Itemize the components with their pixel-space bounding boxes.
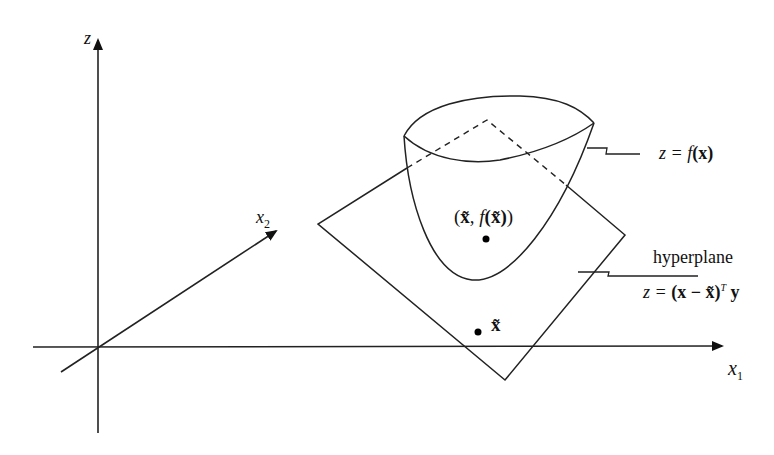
surface-label: z = f(x) (659, 144, 713, 162)
hp-eq-paren: (x − x̃) (671, 282, 720, 302)
diagram-graphics (0, 0, 774, 455)
hyperplane-leader-line (578, 272, 698, 276)
tangent-point-label: (x̃, f(x̃)) (454, 207, 513, 226)
hp-eq-sup: T (720, 282, 726, 293)
hp-eq-lhs: z = (643, 282, 671, 302)
z-axis-label: z (84, 29, 91, 47)
z-axis-label-text: z (84, 28, 91, 48)
x2-axis (61, 231, 276, 372)
base-point-label: x̃ (491, 315, 501, 334)
diagram-canvas: z x2 x1 (x̃, f(x̃)) x̃ z = f(x) hyperpla… (0, 0, 774, 455)
surface-leader-line (587, 148, 640, 154)
hyperplane-title-text: hyperplane (653, 247, 733, 267)
convex-surface-rim-front (404, 123, 594, 162)
x1-label-main: x (728, 357, 737, 379)
x1-axis-label: x1 (728, 358, 743, 378)
base-point-dot (475, 329, 482, 336)
convex-surface-rim-back (404, 96, 594, 136)
x2-axis-label: x2 (256, 208, 270, 226)
x2-label-subscript: 2 (264, 217, 270, 231)
x2-label-main: x (256, 207, 264, 227)
surface-arg: (x) (692, 143, 713, 163)
hp-eq-rhs: y (726, 282, 740, 302)
hyperplane-title: hyperplane (653, 248, 733, 266)
x1-axis (33, 346, 722, 347)
x1-label-subscript: 1 (737, 369, 743, 383)
tp-comma: , (470, 206, 480, 227)
convex-surface-body (404, 123, 594, 280)
hyperplane-edges (318, 168, 625, 380)
tangent-point-dot (483, 236, 490, 243)
tp-x: x̃ (460, 206, 470, 227)
bp-text: x̃ (491, 314, 501, 335)
hyperplane-equation: z = (x − x̃)T y (643, 283, 739, 301)
tp-arg: (x̃) (485, 206, 507, 227)
tp-close: ) (507, 206, 513, 227)
surface-lhs: z = (659, 143, 687, 163)
